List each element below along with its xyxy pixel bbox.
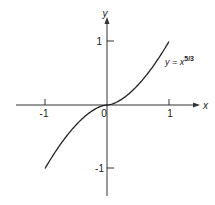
x-tick-label-1: 1 [167, 108, 173, 119]
x-axis-label: x [202, 100, 209, 111]
origin-label: 0 [101, 108, 107, 119]
x-axis-arrow-icon [193, 103, 200, 108]
function-plot: y x -1 0 1 1 -1 y = x5/3 [0, 0, 215, 205]
y-tick-label-1: 1 [96, 36, 102, 47]
function-label-main: y = x [164, 57, 185, 67]
y-axis-label: y [102, 8, 109, 19]
y-tick-label-neg1: -1 [95, 163, 104, 174]
x-tick-label-neg1: -1 [40, 108, 49, 119]
function-label-exponent: 5/3 [184, 55, 194, 62]
function-label: y = x5/3 [164, 55, 194, 67]
